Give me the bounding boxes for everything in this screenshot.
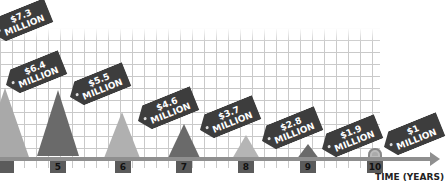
tree-year-6 [104,112,140,162]
year-label-6: 6 [115,161,131,173]
tag-hole-icon [143,116,147,120]
year-label-8: 8 [238,161,254,173]
x-axis-label: TIME (YEARS) [375,172,444,182]
tag-hole-icon [389,142,393,146]
tag-hole-icon [75,92,79,96]
tag-hole-icon [267,136,271,140]
tag-hole-icon [11,80,15,84]
tag-hole-icon [0,28,1,32]
axis-arrow-icon [430,152,440,166]
trunk-year-4 [0,161,14,173]
tree-year-5 [37,90,79,160]
tag-hole-icon [327,144,331,148]
year-label-9: 9 [300,161,316,173]
year-label-7: 7 [176,161,192,173]
tag-hole-icon [205,125,209,129]
year-label-5: 5 [50,161,66,173]
tree-year-4 [0,88,30,166]
